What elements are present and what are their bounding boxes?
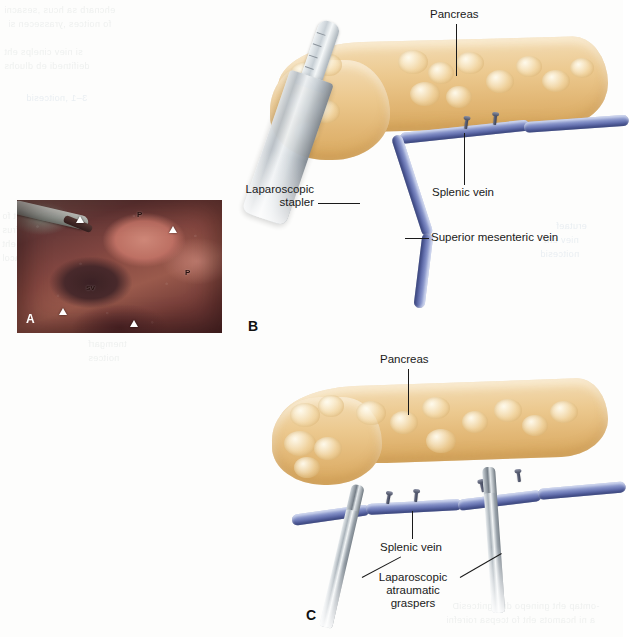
- panel-c-letter: C: [306, 607, 316, 623]
- panel-b-pancreas-lobule: [410, 82, 440, 106]
- photo-label-pancreas-upper: P: [137, 210, 142, 219]
- panel-c-label-graspers-line2: atraumatic: [368, 584, 458, 598]
- panel-c-splenic-vein-distal: [538, 481, 627, 500]
- grasper-shaft: [484, 492, 505, 613]
- panel-c-pancreas-lobule: [284, 431, 316, 456]
- panel-c-pancreas-lobule: [462, 411, 488, 433]
- panel-c-label-graspers-line3: graspers: [368, 597, 458, 611]
- panel-b-leader-smv: [405, 238, 429, 239]
- panel-b-superior-mesenteric-vein: [391, 134, 434, 237]
- ghost-text-top-left: ehcnarb sa hcus ,sesacni: [4, 4, 115, 17]
- panel-b-pancreas-lobule: [446, 86, 472, 108]
- ghost-text-top-left-2: fo noitces ,yrassecen si: [8, 18, 111, 31]
- panel-c-pancreas-lobule: [356, 401, 386, 425]
- ghost-text-top-left-4: deifitnedi eb dluohs: [4, 60, 90, 73]
- ghost-text-top-left-5: 3–1 ,noitcesid: [26, 92, 87, 105]
- panel-c-pancreas-lobule: [314, 437, 342, 460]
- panel-c-label-graspers-line1: Laparoscopic: [368, 571, 458, 585]
- panel-c-grasper-right: [482, 467, 506, 628]
- panel-b-pancreas-lobule: [486, 70, 514, 93]
- panel-c-pancreas-lobule: [426, 429, 456, 453]
- panel-c-pancreas-lobule: [290, 403, 320, 427]
- panel-b-illustration: Pancreas Splenic vein Superior mesenteri…: [250, 0, 623, 345]
- panel-b-pancreas-lobule: [542, 70, 570, 92]
- grasper-shaft: [319, 509, 359, 629]
- panel-b-pancreas-lobule: [570, 58, 594, 78]
- ghost-text-fig-label-2: noitces: [88, 352, 119, 365]
- panel-c-splenic-vein-right: [457, 490, 542, 511]
- panel-b-pancreas-lobule: [516, 56, 542, 77]
- panel-c-leader-pancreas: [408, 369, 409, 415]
- panel-c-pancreas-lobule: [494, 399, 522, 422]
- panel-b-letter: B: [248, 318, 258, 334]
- panel-c-illustration: Pancreas Splenic vein Laparoscopic atrau…: [250, 345, 623, 637]
- panel-c-label-pancreas: Pancreas: [380, 353, 429, 367]
- panel-c-label-splenic-vein: Splenic vein: [380, 541, 442, 555]
- photo-arrowhead-upper-left: [76, 216, 84, 223]
- photo-label-splenic-vein: sv: [86, 283, 95, 292]
- panel-b-label-stapler-line2: stapler: [234, 196, 314, 210]
- panel-b-leader-splenic-vein: [464, 133, 465, 185]
- panel-a-letter: A: [26, 312, 35, 326]
- panel-b-label-stapler-line1: Laparoscopic: [234, 183, 314, 197]
- panel-c-pancreas-lobule: [318, 395, 344, 417]
- panel-b-label-pancreas: Pancreas: [430, 8, 479, 22]
- panel-c-vein-clip: [516, 471, 521, 482]
- panel-b-label-superior-mesenteric-vein: Superior mesenteric vein: [431, 231, 558, 245]
- photo-label-pancreas-right: P: [185, 268, 190, 277]
- panel-c-pancreas-lobule: [522, 415, 548, 436]
- panel-b-leader-stapler: [318, 203, 360, 204]
- photo-arrowhead-bottom-left: [59, 308, 67, 315]
- panel-c-grasper-left: [319, 484, 365, 631]
- panel-c-pancreas-lobule: [390, 411, 418, 434]
- panel-b-pancreas-lobule: [398, 50, 428, 74]
- photo-vignette: [17, 200, 222, 333]
- panel-b-pancreas-lobule: [428, 62, 454, 84]
- panel-c-pancreas-lobule: [550, 401, 578, 423]
- panel-b-label-splenic-vein: Splenic vein: [432, 186, 494, 200]
- panel-c-pancreas-lobule: [422, 397, 450, 419]
- panel-b-pancreas-lobule: [456, 52, 484, 74]
- photo-arrowhead-bottom-center: [130, 320, 138, 327]
- ghost-text-top-left-3: si niev cinelps eht: [4, 46, 83, 59]
- panel-c-pancreas-lobule: [294, 457, 320, 478]
- ghost-text-fig-label: tnemgarf: [88, 338, 127, 351]
- panel-c-leader-splenic-vein: [412, 511, 413, 539]
- photo-arrowhead-right: [169, 226, 177, 233]
- panel-b-leader-pancreas: [456, 24, 457, 76]
- panel-a-photograph: P P sv A: [17, 200, 222, 333]
